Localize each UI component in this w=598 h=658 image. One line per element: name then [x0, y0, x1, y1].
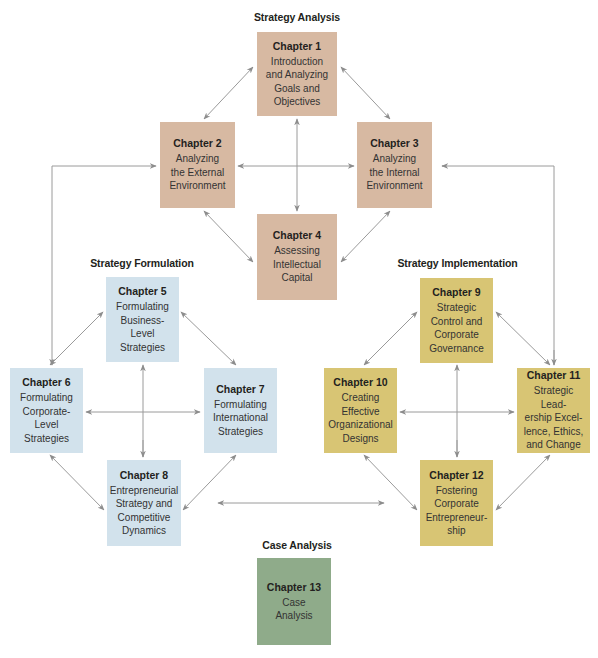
chapter-3-box: Chapter 3 Analyzing the Internal Environ…	[357, 122, 432, 208]
chapter-label: Chapter 6	[22, 376, 70, 388]
chapter-description: Formulating Business-Level Strategies	[109, 300, 176, 354]
chapter-description: Entrepreneurial Strategy and Competitive…	[110, 484, 178, 538]
chapter-label: Chapter 5	[118, 285, 166, 297]
chapter-12-box: Chapter 12 Fostering Corporate Entrepren…	[420, 460, 493, 546]
chapter-2-box: Chapter 2 Analyzing the External Environ…	[160, 122, 235, 208]
chapter-label: Chapter 3	[370, 137, 418, 149]
chapter-1-box: Chapter 1 Introduction and Analyzing Goa…	[257, 32, 337, 116]
chapter-8-box: Chapter 8 Entrepreneurial Strategy and C…	[107, 460, 181, 546]
chapter-11-box: Chapter 11 Strategic Lead- ership Excel-…	[517, 368, 590, 453]
chapter-label: Chapter 2	[173, 137, 221, 149]
chapter-description: Analyzing the Internal Environment	[366, 152, 422, 193]
chapter-6-box: Chapter 6 Formulating Corporate- Level S…	[10, 368, 83, 453]
chapter-description: Strategic Lead- ership Excel- lence, Eth…	[520, 384, 587, 452]
section-title-case-analysis: Case Analysis	[247, 539, 347, 551]
chapter-description: Analyzing the External Environment	[169, 152, 225, 193]
chapter-label: Chapter 10	[333, 376, 387, 388]
chapter-5-box: Chapter 5 Formulating Business-Level Str…	[106, 277, 179, 362]
section-title-strategy-analysis: Strategy Analysis	[247, 11, 347, 23]
chapter-7-box: Chapter 7 Formulating International Stra…	[204, 368, 277, 453]
chapter-label: Chapter 1	[273, 40, 321, 52]
chapter-description: Introduction and Analyzing Goals and Obj…	[266, 55, 328, 109]
chapter-10-box: Chapter 10 Creating Effective Organizati…	[324, 368, 397, 453]
chapter-description: Case Analysis	[275, 596, 312, 623]
chapter-label: Chapter 9	[432, 286, 480, 298]
chapter-label: Chapter 4	[273, 229, 321, 241]
chapter-description: Creating Effective Organizational Design…	[328, 391, 392, 445]
chapter-description: Formulating International Strategies	[213, 398, 268, 439]
chapter-label: Chapter 7	[216, 383, 264, 395]
chapter-label: Chapter 12	[429, 469, 483, 481]
chapter-label: Chapter 13	[267, 581, 321, 593]
chapter-label: Chapter 11	[527, 369, 581, 381]
chapter-label: Chapter 8	[120, 469, 168, 481]
chapter-13-box: Chapter 13 Case Analysis	[257, 558, 331, 645]
chapter-description: Assessing Intellectual Capital	[273, 244, 321, 285]
chapter-description: Formulating Corporate- Level Strategies	[20, 391, 73, 445]
section-title-strategy-implementation: Strategy Implementation	[395, 257, 520, 269]
chapter-description: Fostering Corporate Entrepreneur- ship	[426, 484, 488, 538]
chapter-4-box: Chapter 4 Assessing Intellectual Capital	[257, 214, 337, 300]
section-title-strategy-formulation: Strategy Formulation	[82, 257, 202, 269]
chapter-9-box: Chapter 9 Strategic Control and Corporat…	[420, 278, 493, 363]
chapter-description: Strategic Control and Corporate Governan…	[429, 301, 483, 355]
